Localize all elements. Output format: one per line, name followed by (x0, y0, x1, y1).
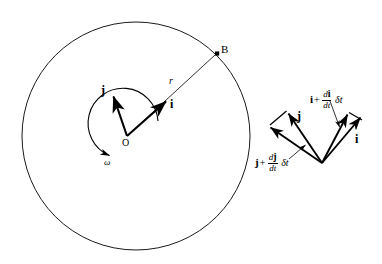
di-expression-label: i + di dt δt (310, 89, 342, 110)
j-vector-label-left: j (101, 84, 105, 96)
di-fraction: di dt (322, 89, 331, 110)
j-vector-label-right: j (297, 110, 301, 122)
dj-expression-suffix: δt (279, 157, 288, 168)
diagram-canvas (0, 0, 382, 264)
di-fraction-denominator: dt (322, 101, 331, 110)
i-delta-segment (349, 113, 362, 121)
origin-label: O (122, 138, 129, 148)
orbit-circle (22, 22, 250, 250)
di-expression-operator: + (313, 94, 321, 105)
dj-fraction-denominator: dt (268, 164, 277, 173)
dj-leader-line (289, 145, 306, 159)
point-b-marker (215, 51, 219, 55)
dj-expression-operator: + (259, 157, 267, 168)
dj-expression-label: j + dj dt δt (255, 152, 289, 173)
di-fraction-numerator: di (322, 89, 331, 100)
dj-numerator-vector: j (273, 151, 276, 162)
i-vector-label-left: i (170, 98, 173, 110)
di-numerator-vector: i (328, 88, 331, 99)
radius-label: r (169, 76, 173, 86)
physics-diagram: B r i j O ω j i i + di dt δt j + dj dt δ… (0, 0, 382, 264)
i-vector-label-right: i (355, 133, 358, 145)
point-b-label: B (221, 44, 228, 55)
di-expression-suffix: δt (333, 94, 342, 105)
dj-fraction-numerator: dj (268, 152, 278, 163)
j-delta-segment (270, 111, 287, 125)
j-vector-left (114, 97, 128, 137)
dj-fraction: dj dt (268, 152, 278, 173)
i-vector-left (127, 102, 166, 137)
omega-label: ω (104, 158, 110, 167)
